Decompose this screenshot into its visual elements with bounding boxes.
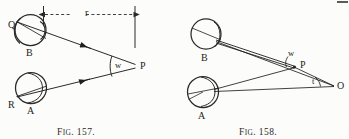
ray-arrowhead-upper	[84, 46, 91, 49]
ray-P-to-B	[17, 22, 136, 65]
fig158-eye-upper	[191, 19, 221, 49]
ray-arrowhead-lower	[83, 79, 90, 81]
label-Q: Q	[8, 19, 15, 30]
figure-page: Q B R A w P r B A w P t O FIG. 157. FIG.…	[0, 0, 349, 139]
label-angle-t: t	[312, 76, 314, 86]
caption-number: . 158.	[253, 127, 277, 137]
label-B: B	[201, 52, 208, 63]
label-R: R	[8, 99, 15, 110]
fig-157-drawing	[0, 0, 349, 139]
visual-axis-B	[17, 22, 47, 39]
caption-smallcaps: IG	[245, 128, 254, 137]
point-P-marker	[293, 66, 296, 69]
label-dimension-r: r	[85, 7, 88, 18]
label-B: B	[26, 47, 33, 58]
label-O: O	[337, 80, 344, 91]
label-A: A	[198, 110, 205, 121]
visual-axis-A	[188, 88, 219, 94]
ray-A-to-O	[214, 87, 334, 92]
label-A: A	[27, 105, 34, 116]
caption-smallcaps: IG	[63, 128, 72, 137]
caption-fig-158: FIG. 158.	[239, 121, 277, 139]
fig157-dimension-r	[44, 6, 136, 48]
fig158-eye-lower	[188, 77, 220, 108]
label-angle-w: w	[288, 48, 294, 58]
label-P: P	[140, 60, 146, 71]
visual-axis-B	[192, 28, 221, 40]
ray-B-to-O	[216, 42, 334, 87]
fig157-eye-upper	[14, 15, 46, 46]
fig157-eye-lower	[16, 73, 48, 104]
caption-number: . 157.	[71, 127, 95, 137]
ray-B-to-P-lower	[216, 43, 294, 68]
ray-B-to-P-upper	[216, 40, 294, 66]
cornea-arc-A	[201, 77, 215, 107]
scan-artifact-speck	[337, 1, 348, 3]
fig158-rays	[214, 40, 334, 92]
caption-fig-157: FIG. 157.	[57, 121, 95, 139]
label-angle-w: w	[115, 60, 121, 70]
ray-A-to-P	[214, 68, 295, 90]
label-P: P	[300, 59, 306, 70]
